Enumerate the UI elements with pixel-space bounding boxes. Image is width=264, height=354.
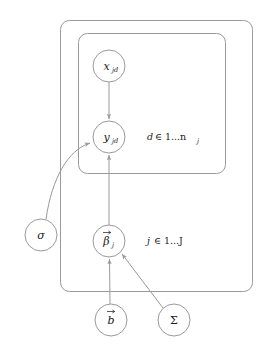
node-b-symbol: b (107, 314, 114, 327)
outer-plate-label-var: j (145, 235, 150, 246)
outer-plate-label-rel: ∈ (154, 235, 161, 246)
outer-plate-label-range: 1...J (164, 235, 183, 246)
node-x-jd-subscript: jd (110, 66, 118, 74)
edge-group (46, 82, 163, 308)
inner-plate-label-rel: ∈ (155, 131, 162, 142)
inner-plate-label-range: 1...n (165, 131, 186, 142)
node-x-jd-symbol: x (103, 60, 110, 73)
inner-plate-label: d ∈ 1...n j (147, 131, 199, 145)
node-group: x jd y jd β j σ (25, 50, 190, 336)
inner-plate-label-var: d (147, 131, 153, 142)
node-b[interactable]: b (95, 304, 127, 336)
node-beta-j-symbol: β (102, 235, 109, 248)
outer-plate-rect (61, 21, 253, 292)
node-beta-j[interactable]: β j (93, 225, 125, 257)
node-y-jd-subscript: jd (110, 137, 118, 145)
outer-plate-label: j ∈ 1...J (145, 235, 183, 246)
node-y-jd-symbol: y (102, 131, 110, 144)
node-Sigma-symbol: Σ (170, 314, 178, 327)
edge-Sigma-to-beta (122, 254, 163, 308)
graphical-model-svg: x jd y jd β j σ (0, 0, 264, 354)
node-Sigma[interactable]: Σ (158, 304, 190, 336)
plate-label-group: d ∈ 1...n j j ∈ 1...J (145, 131, 199, 246)
node-sigma-symbol: σ (37, 229, 45, 242)
inner-plate-label-range-subscript: j (195, 137, 199, 145)
node-x-jd[interactable]: x jd (93, 50, 125, 82)
plate-group (61, 21, 253, 292)
plate-diagram-canvas: x jd y jd β j σ (0, 0, 264, 354)
node-sigma[interactable]: σ (25, 219, 57, 251)
edge-sigma-to-y (46, 143, 90, 219)
node-y-jd[interactable]: y jd (93, 121, 125, 153)
edge-b-to-beta (110, 259, 111, 304)
